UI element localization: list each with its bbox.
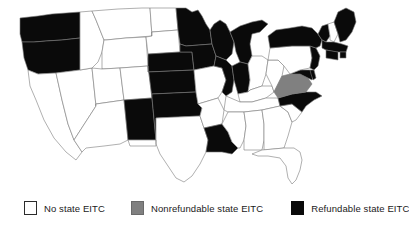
no-eitc-swatch: [24, 201, 37, 215]
state-ME[interactable]: [334, 8, 356, 42]
state-CT[interactable]: [326, 50, 338, 60]
state-MO[interactable]: [194, 66, 226, 104]
state-CO[interactable]: [120, 66, 152, 100]
state-NY[interactable]: [268, 26, 322, 48]
state-WY[interactable]: [102, 37, 148, 69]
refundable-swatch: [291, 201, 304, 215]
state-GA[interactable]: [262, 106, 292, 150]
us-states-map: [0, 0, 372, 190]
state-IN[interactable]: [232, 62, 250, 94]
legend-item-nonrefundable[interactable]: Nonrefundable state EITC: [131, 201, 263, 215]
legend-item-refundable[interactable]: Refundable state EITC: [291, 201, 409, 215]
state-NE[interactable]: [148, 52, 194, 72]
legend-label-no-eitc: No state EITC: [44, 203, 105, 214]
legend-item-no-eitc[interactable]: No state EITC: [24, 201, 105, 215]
state-WA[interactable]: [20, 12, 80, 42]
legend-label-refundable: Refundable state EITC: [311, 203, 409, 214]
state-shapes: [20, 8, 356, 184]
state-AL[interactable]: [244, 110, 264, 150]
nonrefundable-swatch: [131, 201, 144, 215]
state-UT[interactable]: [92, 68, 124, 106]
state-OR[interactable]: [22, 38, 80, 74]
state-MN[interactable]: [176, 8, 212, 46]
state-NM[interactable]: [124, 98, 156, 140]
state-RI[interactable]: [340, 52, 346, 58]
state-FL[interactable]: [252, 148, 302, 184]
legend-label-nonrefundable: Nonrefundable state EITC: [151, 203, 263, 214]
map-legend: No state EITC Nonrefundable state EITC R…: [0, 196, 372, 220]
